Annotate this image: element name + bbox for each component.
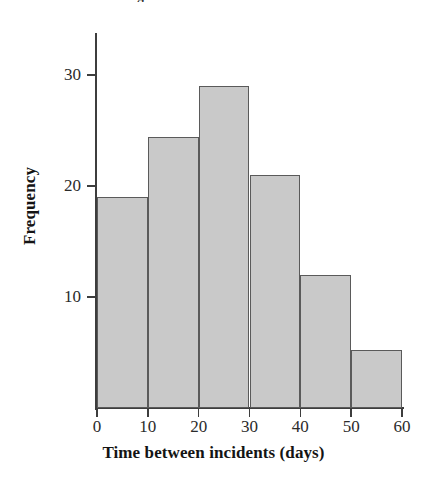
x-axis-tick-label: 20 (179, 418, 219, 435)
x-axis-tick-label: 30 (230, 418, 270, 435)
x-axis-title: Time between incidents (days) (0, 443, 427, 463)
y-axis-tick (87, 296, 95, 298)
x-axis-tick (147, 409, 149, 417)
chart-title-clipped: Histogram of Time between incidents (0, 0, 427, 2)
histogram-figure: Histogram of Time between incidents Time… (0, 0, 427, 479)
x-axis-tick (249, 409, 251, 417)
y-axis-tick-label: 20 (41, 177, 81, 194)
histogram-bar (199, 86, 250, 408)
x-axis-tick (300, 409, 302, 417)
x-axis-tick (198, 409, 200, 417)
histogram-bar (300, 275, 351, 408)
y-axis-tick-label: 30 (41, 66, 81, 83)
x-axis-tick-label: 40 (280, 418, 320, 435)
x-axis-tick (96, 409, 98, 417)
x-axis-tick-label: 50 (331, 418, 371, 435)
x-axis-tick (401, 409, 403, 417)
y-axis-tick (87, 74, 95, 76)
x-axis-tick-label: 0 (77, 418, 117, 435)
plot-area (97, 33, 402, 408)
histogram-bar (97, 197, 148, 408)
histogram-bar (351, 350, 402, 408)
y-axis-tick-label: 10 (41, 288, 81, 305)
y-axis-tick (87, 185, 95, 187)
y-axis-title: Frequency (20, 116, 40, 296)
x-axis-tick-label: 60 (382, 418, 422, 435)
histogram-bar (148, 137, 199, 408)
x-axis-tick-label: 10 (128, 418, 168, 435)
x-axis-tick (350, 409, 352, 417)
histogram-bar (250, 175, 301, 408)
